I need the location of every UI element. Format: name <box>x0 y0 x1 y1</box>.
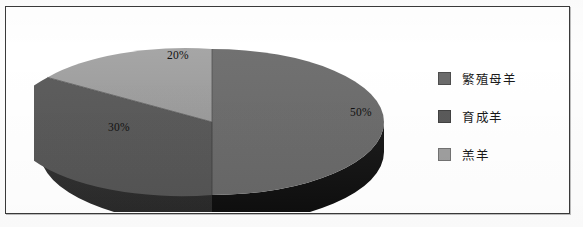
legend-swatch-icon-growing-sheep <box>438 110 451 123</box>
legend-label-lambs: 羔羊 <box>462 145 489 164</box>
legend-label-growing-sheep: 育成羊 <box>462 107 503 126</box>
pie-chart-svg <box>34 17 404 212</box>
pie-slice-value-label-a: 50% <box>350 106 372 118</box>
chart-legend: 繁殖母羊 育成羊 羔羊 <box>438 69 568 183</box>
chart-screenshot: 50% 30% 20% 繁殖母羊 育成羊 羔羊 <box>0 0 583 227</box>
chart-frame: 50% 30% 20% 繁殖母羊 育成羊 羔羊 <box>5 6 570 214</box>
pie-chart-plot-area: 50% 30% 20% <box>34 17 404 212</box>
legend-swatch-icon-breeding-ewes <box>438 72 451 85</box>
legend-swatch-icon-lambs <box>438 148 451 161</box>
legend-item-growing-sheep[interactable]: 育成羊 <box>438 107 568 126</box>
legend-item-lambs[interactable]: 羔羊 <box>438 145 568 164</box>
pie-slice-value-label-b: 30% <box>108 121 130 133</box>
legend-label-breeding-ewes: 繁殖母羊 <box>462 69 516 88</box>
pie-slice-value-label-c: 20% <box>167 49 189 61</box>
legend-item-breeding-ewes[interactable]: 繁殖母羊 <box>438 69 568 88</box>
